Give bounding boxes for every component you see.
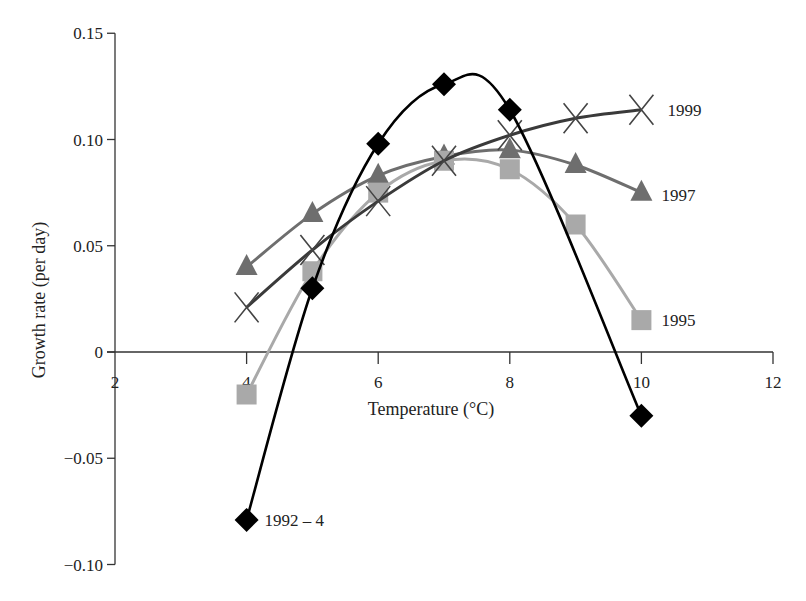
- diamond-marker: [366, 132, 390, 156]
- x-axis-label: Temperature (°C): [368, 399, 494, 420]
- square-marker: [500, 159, 520, 179]
- growth-rate-chart: −0.10−0.0500.050.100.1524681012 19971995…: [0, 0, 806, 601]
- series-label: 1992 – 4: [265, 511, 325, 530]
- x-marker: [235, 292, 259, 322]
- x-tick-label: 10: [633, 373, 650, 392]
- series-layer: 1997199519991992 – 4: [235, 72, 702, 532]
- triangle-marker: [499, 137, 521, 158]
- x-tick-label: 12: [765, 373, 782, 392]
- square-marker: [237, 385, 257, 405]
- triangle-marker: [301, 201, 323, 222]
- y-tick-label: 0.05: [73, 237, 103, 256]
- x-tick-label: 6: [374, 373, 383, 392]
- x-tick-label: 8: [506, 373, 515, 392]
- x-tick-label: 2: [111, 373, 120, 392]
- diamond-marker: [629, 404, 653, 428]
- square-marker: [631, 310, 651, 330]
- series-label: 1999: [667, 101, 701, 120]
- y-tick-label: 0.10: [73, 131, 103, 150]
- y-tick-label: 0: [95, 343, 104, 362]
- square-marker: [566, 215, 586, 235]
- series-label: 1995: [661, 311, 695, 330]
- series-19924: 1992 – 4: [235, 72, 654, 532]
- y-tick-label: −0.05: [64, 449, 103, 468]
- diamond-marker: [432, 72, 456, 96]
- diamond-marker: [498, 98, 522, 122]
- diamond-marker: [235, 508, 259, 532]
- y-axis-label: Growth rate (per day): [29, 222, 50, 378]
- series-label: 1997: [661, 186, 696, 205]
- triangle-marker: [236, 254, 258, 275]
- x-marker: [300, 235, 324, 265]
- y-tick-label: 0.15: [73, 24, 103, 43]
- series-1995: 1995: [237, 151, 696, 405]
- y-tick-label: −0.10: [64, 556, 103, 575]
